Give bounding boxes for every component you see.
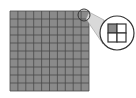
- magnified-grid-diagram: [0, 0, 136, 98]
- detail-grid: [108, 24, 126, 42]
- grid: [10, 11, 89, 91]
- magnifier-large-circle: [100, 16, 134, 50]
